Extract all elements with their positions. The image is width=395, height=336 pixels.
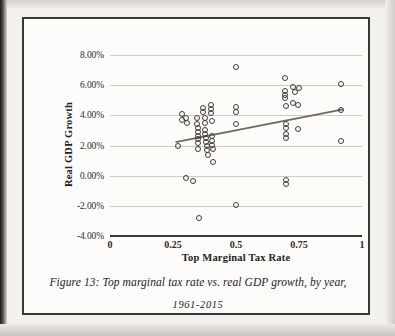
y-axis-title-label: Real GDP Growth	[64, 101, 75, 186]
scan-edge-top	[0, 0, 395, 8]
data-point	[338, 138, 344, 144]
y-tick-label: -4.00%	[77, 231, 104, 241]
caption-line-2: 1961-2015	[36, 299, 360, 310]
figure-page: Real GDP Growth 8.00%6.00%4.00%2.00%0.00…	[0, 0, 395, 336]
data-point	[338, 107, 344, 113]
scatter-plot-area: 8.00%6.00%4.00%2.00%0.00%-2.00%-4.00% 00…	[110, 55, 362, 236]
data-point	[208, 110, 214, 116]
data-point	[233, 109, 239, 115]
x-tick-label: 0	[108, 239, 113, 250]
x-axis-title: Top Marginal Tax Rate	[110, 252, 362, 263]
x-tick-label: 1	[360, 239, 365, 250]
y-tick-label: -2.00%	[77, 201, 104, 211]
figure-border-box: Real GDP Growth 8.00%6.00%4.00%2.00%0.00…	[22, 17, 370, 315]
data-point	[338, 81, 344, 87]
y-tick-label: 4.00%	[80, 110, 104, 120]
data-point	[295, 126, 301, 132]
trend-line	[110, 55, 362, 236]
data-point	[202, 120, 208, 126]
x-tick-label: 0.5	[230, 239, 243, 250]
data-point	[183, 175, 189, 181]
y-axis-title: Real GDP Growth	[61, 79, 77, 209]
data-point	[194, 115, 200, 121]
y-tick-label: 6.00%	[80, 80, 104, 90]
x-tick-label: 0.75	[290, 239, 308, 250]
y-tick-label: 2.00%	[80, 141, 104, 151]
y-tick-label: 0.00%	[80, 171, 104, 181]
caption-line-1: Figure 13: Top marginal tax rate vs. rea…	[36, 275, 360, 290]
x-tick-label: 0.25	[164, 239, 182, 250]
data-point	[184, 120, 190, 126]
figure-caption: Figure 13: Top marginal tax rate vs. rea…	[36, 275, 360, 310]
y-tick-label: 8.00%	[80, 50, 104, 60]
data-point	[283, 103, 289, 109]
scan-gutter-left	[0, 0, 7, 336]
data-point	[295, 102, 301, 108]
data-point	[233, 64, 239, 70]
data-point	[233, 121, 239, 127]
scan-edge-bottom	[0, 324, 395, 336]
data-point	[195, 146, 201, 152]
scan-edge-right	[385, 0, 395, 336]
